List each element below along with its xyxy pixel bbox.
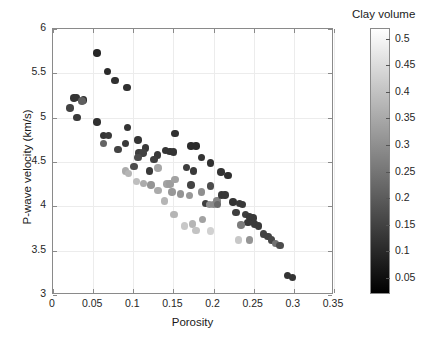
colorbar-tick-label: 0.5 [395, 32, 410, 44]
scatter-point [207, 182, 215, 190]
x-axis-tick [173, 289, 174, 293]
x-axis-tick-top [334, 29, 335, 33]
scatter-point [123, 84, 131, 92]
x-tick-label: 0.25 [233, 297, 273, 309]
colorbar-tick [386, 251, 390, 252]
scatter-point [154, 164, 162, 172]
x-tick-label: 0.15 [152, 297, 192, 309]
y-tick-label: 3.5 [6, 243, 46, 255]
x-axis-tick-top [214, 29, 215, 33]
scatter-point [100, 140, 108, 148]
y-axis-tick [53, 73, 57, 74]
x-axis-tick-top [294, 29, 295, 33]
x-axis-tick [294, 289, 295, 293]
colorbar-gradient [370, 28, 390, 294]
scatter-point [255, 222, 263, 230]
y-tick-label: 3 [6, 287, 46, 299]
scatter-point [125, 170, 133, 178]
scatter-point [187, 181, 195, 189]
x-axis-tick [53, 289, 54, 293]
scatter-point [124, 124, 132, 132]
colorbar-tick-label: 0.35 [395, 111, 415, 123]
x-axis-tick-top [93, 29, 94, 33]
scatter-point [161, 197, 169, 205]
y-tick-label: 5.5 [6, 65, 46, 77]
colorbar-tick-label: 0.2 [395, 191, 410, 203]
y-axis-tick [53, 295, 57, 296]
y-gridline [53, 251, 332, 252]
scatter-point [93, 118, 101, 126]
scatter-point [198, 154, 206, 162]
scatter-point [199, 216, 207, 224]
scatter-point [192, 227, 200, 235]
scatter-point [134, 154, 142, 162]
x-axis-tick [93, 289, 94, 293]
y-tick-label: 6 [6, 21, 46, 33]
colorbar-tick-label: 0.45 [395, 58, 415, 70]
scatter-point [224, 172, 232, 180]
x-axis-tick [254, 289, 255, 293]
scatter-point [198, 188, 206, 196]
y-axis-tick-right [328, 295, 332, 296]
x-axis-tick [214, 289, 215, 293]
y-tick-label: 4.5 [6, 154, 46, 166]
x-gridline [93, 29, 94, 293]
x-axis-label: Porosity [52, 316, 333, 328]
y-gridline [53, 162, 332, 163]
colorbar-tick-label: 0.1 [395, 244, 410, 256]
y-axis-tick-right [328, 118, 332, 119]
x-axis-tick-top [254, 29, 255, 33]
scatter-point [93, 49, 101, 57]
y-tick-label: 5 [6, 110, 46, 122]
scatter-point [177, 190, 185, 198]
colorbar-title: Clay volume [352, 8, 415, 20]
x-gridline [133, 29, 134, 293]
scatter-point [170, 211, 178, 219]
scatter-point [232, 209, 240, 217]
scatter-point [170, 148, 178, 156]
scatter-point [134, 136, 142, 144]
colorbar-tick-label: 0.05 [395, 271, 415, 283]
x-axis-tick-top [173, 29, 174, 33]
colorbar-tick [386, 172, 390, 173]
colorbar-tick [386, 145, 390, 146]
scatter-point [154, 187, 162, 195]
x-axis-tick-top [133, 29, 134, 33]
y-axis-tick-right [328, 251, 332, 252]
y-axis-tick [53, 118, 57, 119]
scatter-point [171, 176, 179, 184]
colorbar-tick [386, 65, 390, 66]
y-tick-label: 4 [6, 198, 46, 210]
colorbar-tick-label: 0.25 [395, 165, 415, 177]
scatter-point [192, 142, 200, 150]
scatter-point [207, 227, 215, 235]
y-axis-tick-right [328, 206, 332, 207]
y-axis-tick-right [328, 162, 332, 163]
x-gridline [173, 29, 174, 293]
scatter-point [235, 236, 243, 244]
scatter-point [221, 191, 229, 199]
y-axis-tick [53, 206, 57, 207]
colorbar-tick-label: 0.15 [395, 218, 415, 230]
colorbar-tick [386, 118, 390, 119]
scatter-point [246, 236, 254, 244]
x-gridline [294, 29, 295, 293]
scatter-point [181, 222, 189, 230]
scatter-point [66, 104, 74, 112]
colorbar-tick-label: 0.4 [395, 85, 410, 97]
x-tick-label: 0.05 [72, 297, 112, 309]
x-tick-label: 0.2 [193, 297, 233, 309]
plot-area [52, 28, 333, 294]
y-gridline [53, 73, 332, 74]
scatter-point [150, 156, 158, 164]
scatter-point [130, 163, 138, 171]
scatter-point [183, 164, 191, 172]
colorbar-tick [386, 198, 390, 199]
scatter-point [105, 132, 113, 140]
colorbar-tick [386, 39, 390, 40]
y-axis-tick-right [328, 29, 332, 30]
scatter-point [146, 167, 154, 175]
y-gridline [53, 206, 332, 207]
scatter-point [78, 97, 86, 105]
scatter-point [207, 159, 215, 167]
